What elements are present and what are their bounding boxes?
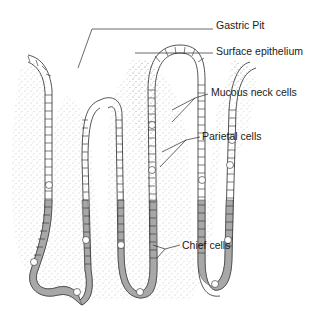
- label-surface-epithelium: Surface epithelium: [216, 45, 303, 57]
- label-mucous-neck-cells: Mucous neck cells: [211, 86, 297, 98]
- label-gastric-pit: Gastric Pit: [216, 19, 264, 31]
- label-parietal-cells: Parietal cells: [202, 130, 262, 142]
- label-chief-cells: Chief cells: [182, 239, 230, 251]
